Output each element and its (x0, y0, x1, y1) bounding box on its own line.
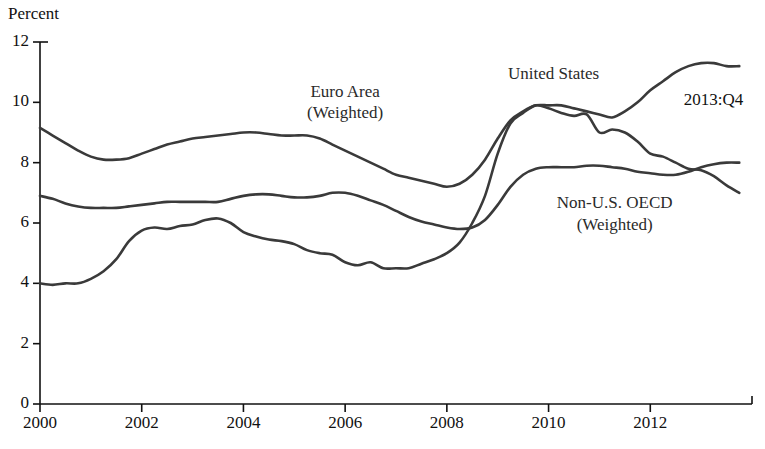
euro-area-label-line: Euro Area (255, 81, 435, 102)
euro-area-label: Euro Area(Weighted) (255, 81, 435, 124)
non-us-oecd-label-line: Non-U.S. OECD (525, 192, 705, 213)
x-tick-label: 2006 (305, 413, 385, 433)
y-tick-label: 4 (0, 272, 29, 292)
x-tick-label: 2010 (509, 413, 589, 433)
x-tick-label: 2000 (0, 413, 80, 433)
y-axis-title: Percent (8, 4, 59, 24)
non-us-oecd-label-line: (Weighted) (525, 214, 705, 235)
y-tick-label: 8 (0, 152, 29, 172)
y-tick-label: 0 (0, 393, 29, 413)
euro-area-label-line: (Weighted) (255, 102, 435, 123)
x-tick-label: 2008 (407, 413, 487, 433)
endpoint-label: 2013:Q4 (684, 90, 744, 110)
y-tick-label: 2 (0, 333, 29, 353)
united-states-label: United States (464, 63, 644, 84)
x-tick-label: 2012 (610, 413, 690, 433)
unemployment-rate-chart: Percent 024681012 2000200220042006200820… (0, 0, 765, 449)
y-tick-label: 12 (0, 31, 29, 51)
y-tick-label: 6 (0, 212, 29, 232)
x-tick-label: 2004 (203, 413, 283, 433)
x-tick-label: 2002 (102, 413, 182, 433)
y-tick-label: 10 (0, 91, 29, 111)
united-states-label-line: United States (464, 63, 644, 84)
non-us-oecd-label: Non-U.S. OECD(Weighted) (525, 192, 705, 235)
endpoint-label-line: 2013:Q4 (684, 90, 744, 109)
